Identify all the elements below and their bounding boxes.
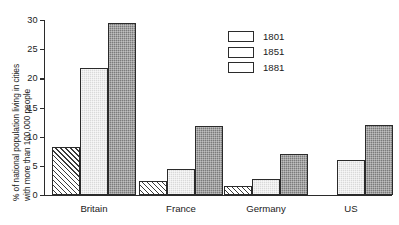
y-tick-label: 10 [27, 132, 37, 142]
bar-germany-1801 [224, 186, 252, 195]
y-axis-title: % of national population living in citie… [0, 0, 28, 206]
legend: 180118511881 [228, 29, 284, 76]
legend-item-1851: 1851 [228, 45, 284, 61]
y-tick-mark [40, 78, 45, 79]
y-tick-mark [40, 137, 45, 138]
bar-france-1881 [195, 126, 223, 195]
bar-germany-1851 [252, 179, 280, 196]
bar-us-1881 [365, 125, 393, 196]
y-tick-label: 0 [32, 190, 37, 200]
bar-chart-figure: % of national population living in citie… [0, 0, 399, 225]
plot-area: 051015202530 BritainFranceGermanyUS [44, 20, 392, 196]
bar-france-1851 [167, 169, 195, 195]
clipped-header-remnant [150, 0, 270, 5]
bar-us-1851 [337, 160, 365, 195]
y-axis-title-line-1: % of national population living in citie… [11, 64, 23, 201]
legend-label-1851: 1851 [263, 47, 284, 57]
y-tick-mark [40, 49, 45, 50]
legend-label-1801: 1801 [263, 32, 284, 42]
bar-britain-1801 [52, 147, 80, 195]
y-tick-mark [40, 195, 45, 196]
bar-britain-1851 [80, 68, 108, 195]
legend-swatch-1851 [228, 47, 254, 58]
bar-germany-1881 [280, 154, 308, 195]
y-tick-label: 15 [27, 103, 37, 113]
bar-britain-1881 [108, 23, 136, 195]
y-tick-label: 25 [27, 44, 37, 54]
y-axis-line [44, 20, 45, 196]
legend-item-1801: 1801 [228, 29, 284, 45]
category-label-britain: Britain [80, 203, 107, 214]
legend-swatch-1881 [228, 62, 254, 73]
legend-label-1881: 1881 [263, 63, 284, 73]
category-label-us: US [344, 203, 357, 214]
y-tick-mark [40, 108, 45, 109]
y-tick-label: 20 [27, 73, 37, 83]
category-label-france: France [166, 203, 196, 214]
bar-france-1801 [139, 181, 167, 196]
y-tick-label: 5 [32, 161, 37, 171]
legend-item-1881: 1881 [228, 60, 284, 76]
y-tick-label: 30 [27, 15, 37, 25]
category-label-germany: Germany [246, 203, 285, 214]
y-tick-mark [40, 20, 45, 21]
y-tick-mark [40, 166, 45, 167]
legend-swatch-1801 [228, 31, 254, 42]
